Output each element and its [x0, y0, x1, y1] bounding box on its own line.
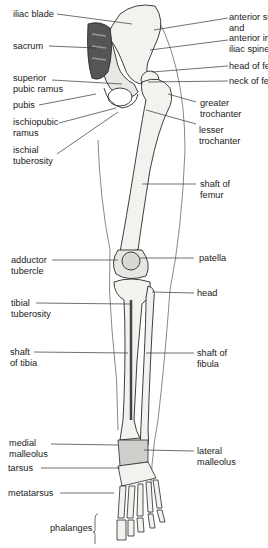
label-phalanges: phalanges	[50, 523, 92, 534]
label-sacrum: sacrum	[13, 41, 43, 52]
label-patella: patella	[199, 253, 226, 264]
label-superior-pubic-ramus: superiorpubic ramus	[13, 73, 63, 94]
label-shaft-of-femur: shaft offemur	[200, 179, 230, 200]
label-pubis: pubis	[13, 100, 35, 111]
foot-bones	[117, 440, 165, 540]
label-adductor-tubercle: adductortubercle	[11, 255, 47, 276]
sacrum-bone	[88, 23, 112, 79]
patella-bone	[122, 252, 140, 270]
label-anterior-iliac-spines: anterior superiorandanterior inferiorili…	[229, 12, 268, 54]
label-lesser-trochanter: lessertrochanter	[199, 125, 240, 146]
label-neck-of-femur: neck of femur	[229, 76, 268, 87]
label-tibial-tuberosity: tibialtuberosity	[11, 298, 51, 319]
label-lateral-malleolus: lateralmalleolus	[197, 446, 236, 467]
label-head-of-femur: head of femur	[229, 61, 268, 72]
label-medial-malleolus: medialmalleolus	[9, 438, 48, 459]
label-shaft-of-fibula: shaft offibula	[197, 348, 227, 369]
label-metatarsus: metatarsus	[8, 488, 53, 499]
fibula-bone	[140, 286, 154, 452]
label-head: head	[197, 288, 217, 299]
label-iliac-blade: iliac blade	[13, 9, 54, 20]
label-ischiopubic-ramus: ischiopubicramus	[13, 117, 58, 138]
label-tarsus: tarsus	[8, 463, 33, 474]
label-shaft-of-tibia: shaftof tibia	[10, 347, 37, 368]
label-greater-trochanter: greatertrochanter	[200, 98, 241, 119]
label-ischial-tuberosity: ischialtuberosity	[13, 145, 53, 166]
